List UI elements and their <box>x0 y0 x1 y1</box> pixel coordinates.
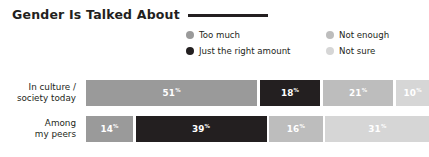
bar-row-label-in-culture-society-today: In culture / society today <box>0 82 86 104</box>
bar-segment-not-enough[interactable]: 16% <box>269 116 323 142</box>
bar-segment-not-enough[interactable]: 21% <box>323 80 394 106</box>
legend-swatch-just-right <box>186 47 194 55</box>
bar-row-label-line2: my peers <box>0 129 76 140</box>
bar-segment-value-not-sure: 31% <box>368 124 386 134</box>
legend-item-not-enough[interactable]: Not enough <box>326 27 422 43</box>
bar-segment-value-just-right: 18% <box>281 88 299 98</box>
bar-segment-value-not-enough: 16% <box>287 124 305 134</box>
legend-item-not-sure[interactable]: Not sure <box>326 43 422 59</box>
percent-sign: % <box>205 123 211 129</box>
percent-sign: % <box>175 87 181 93</box>
bar-segment-not-sure[interactable]: 31% <box>325 116 429 142</box>
legend-label-just-right: Just the right amount <box>199 47 290 56</box>
title-rule-divider <box>188 14 268 17</box>
legend-swatch-too-much <box>186 31 194 39</box>
legend-label-too-much: Too much <box>199 31 240 40</box>
chart-header: Gender Is Talked About <box>12 9 420 22</box>
bar-segment-value-just-right: 39% <box>192 124 210 134</box>
bar-segment-not-sure[interactable]: 10% <box>396 80 429 106</box>
percent-sign: % <box>416 87 422 93</box>
bar-segment-value-not-sure: 10% <box>404 88 422 98</box>
percent-sign: % <box>299 123 305 129</box>
bar-segment-too-much[interactable]: 14% <box>86 116 133 142</box>
percent-sign: % <box>381 123 387 129</box>
percent-sign: % <box>362 87 368 93</box>
bar-segment-value-too-much: 14% <box>100 124 118 134</box>
bar-row-label-line1: In culture / <box>0 82 76 93</box>
bar-chart-rows: In culture / society today 51% 18% 21% 1… <box>0 80 428 152</box>
bar-segment-just-right[interactable]: 39% <box>136 116 267 142</box>
chart-legend: Too much Not enough Just the right amoun… <box>186 27 422 59</box>
legend-item-just-right[interactable]: Just the right amount <box>186 43 326 59</box>
bar-segment-value-not-enough: 21% <box>349 88 367 98</box>
legend-label-not-sure: Not sure <box>339 47 375 56</box>
percent-sign: % <box>294 87 300 93</box>
legend-item-too-much[interactable]: Too much <box>186 27 326 43</box>
bar-segment-just-right[interactable]: 18% <box>260 80 320 106</box>
bar-row-label-among-my-peers: Among my peers <box>0 118 86 140</box>
legend-swatch-not-enough <box>326 31 334 39</box>
bar-segment-too-much[interactable]: 51% <box>86 80 257 106</box>
bar-row-label-line1: Among <box>0 118 76 129</box>
bar-track-among-my-peers: 14% 39% 16% 31% <box>86 116 422 142</box>
legend-swatch-not-sure <box>326 47 334 55</box>
legend-label-not-enough: Not enough <box>339 31 389 40</box>
bar-row-label-line2: society today <box>0 93 76 104</box>
bar-row-among-my-peers: Among my peers 14% 39% 16% 31% <box>0 116 428 142</box>
bar-row-in-culture-society-today: In culture / society today 51% 18% 21% 1… <box>0 80 428 106</box>
percent-sign: % <box>113 123 119 129</box>
page-title: Gender Is Talked About <box>12 9 180 22</box>
bar-track-in-culture-society-today: 51% 18% 21% 10% <box>86 80 422 106</box>
bar-segment-value-too-much: 51% <box>163 88 181 98</box>
